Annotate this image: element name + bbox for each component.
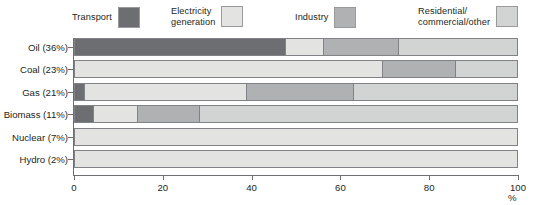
bar-segment xyxy=(353,84,517,100)
plot-area xyxy=(74,38,518,174)
bar-segment xyxy=(382,61,455,77)
legend-swatch-residential xyxy=(496,6,518,27)
legend-item-residential: Residential/ commercial/other xyxy=(418,6,518,27)
bar-segment xyxy=(75,129,517,145)
x-axis-line xyxy=(73,175,519,176)
bar-row xyxy=(74,60,518,78)
bar-row xyxy=(74,105,518,123)
bar-segment xyxy=(75,106,93,122)
x-axis-tick-label: 80 xyxy=(424,182,435,193)
x-axis-tick-label: 0 xyxy=(71,182,76,193)
bar-row xyxy=(74,128,518,146)
bar-segment xyxy=(455,61,517,77)
y-axis-tick-label: Biomass (11%) xyxy=(0,109,68,120)
bar-segment xyxy=(75,61,382,77)
x-axis-tick-label: 40 xyxy=(246,182,257,193)
y-axis-tick-label: Coal (23%) xyxy=(0,64,68,75)
bar-segment xyxy=(199,106,517,122)
x-axis-tick-mark xyxy=(74,175,75,180)
bar-segment xyxy=(137,106,199,122)
legend-item-industry: Industry xyxy=(295,7,356,28)
y-axis-tick-mark xyxy=(68,47,73,48)
y-axis-tick-mark xyxy=(68,92,73,93)
bar-segment xyxy=(246,84,353,100)
x-axis-tick-mark xyxy=(340,175,341,180)
y-axis-tick-label: Nuclear (7%) xyxy=(0,132,68,143)
x-axis-unit-label: % xyxy=(508,192,517,203)
legend-label-electricity: Electricity generation xyxy=(171,6,215,27)
legend-item-transport: Transport xyxy=(72,7,140,28)
bar-row xyxy=(74,150,518,168)
y-axis-tick-label: Gas (21%) xyxy=(0,87,68,98)
x-axis-tick-mark xyxy=(518,175,519,180)
legend-swatch-transport xyxy=(118,7,140,28)
bar-segment xyxy=(285,39,323,55)
bar-segment xyxy=(75,151,517,167)
y-axis-tick-label: Hydro (2%) xyxy=(0,154,68,165)
legend-label-residential: Residential/ commercial/other xyxy=(418,6,490,27)
y-axis-tick-label: Oil (36%) xyxy=(0,42,68,53)
bar-segment xyxy=(84,84,246,100)
stacked-bar-chart: Transport Electricity generation Industr… xyxy=(0,0,536,205)
bar-segment xyxy=(93,106,137,122)
bar-segment xyxy=(323,39,398,55)
legend-item-electricity: Electricity generation xyxy=(171,6,243,27)
legend-swatch-electricity xyxy=(221,6,243,27)
legend-label-transport: Transport xyxy=(72,12,112,22)
y-axis-tick-mark xyxy=(68,159,73,160)
y-axis-tick-mark xyxy=(68,69,73,70)
bar-row xyxy=(74,38,518,56)
y-axis-tick-mark xyxy=(68,137,73,138)
x-axis-tick-label: 20 xyxy=(157,182,168,193)
x-axis-tick-mark xyxy=(163,175,164,180)
chart-legend: Transport Electricity generation Industr… xyxy=(0,0,536,36)
x-axis-tick-mark xyxy=(429,175,430,180)
legend-swatch-industry xyxy=(334,7,356,28)
bar-segment xyxy=(75,39,285,55)
bar-segment xyxy=(398,39,517,55)
legend-label-industry: Industry xyxy=(295,12,328,22)
y-axis-tick-mark xyxy=(68,114,73,115)
bar-row xyxy=(74,83,518,101)
x-axis-tick-label: 60 xyxy=(335,182,346,193)
bar-segment xyxy=(75,84,84,100)
x-axis-tick-mark xyxy=(252,175,253,180)
